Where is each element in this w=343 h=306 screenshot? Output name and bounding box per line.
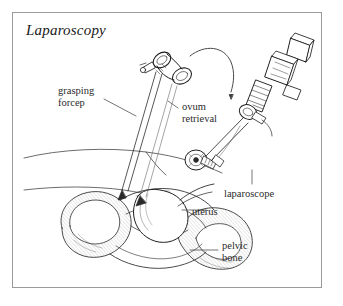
label-ovum-retrieval: ovum retrieval — [182, 101, 217, 124]
grasping-forcep — [118, 49, 194, 206]
rotation-arrow — [190, 48, 234, 99]
label-grasping-forcep-line1: grasping — [58, 85, 94, 97]
ovum-retrieval-site — [185, 150, 216, 170]
leader-grasping-forcep — [104, 99, 136, 116]
figure-page: Laparoscopy — [0, 0, 343, 306]
label-pelvic-bone-line2: bone — [222, 252, 248, 264]
laparoscopy-illustration — [0, 0, 343, 306]
laparoscope — [206, 33, 314, 167]
label-grasping-forcep: grasping forcep — [58, 85, 94, 108]
label-pelvic-bone-line1: pelvic — [222, 240, 248, 252]
label-uterus: uterus — [192, 206, 218, 218]
label-laparoscope: laparoscope — [224, 188, 274, 200]
label-grasping-forcep-line2: forcep — [58, 97, 94, 109]
label-pelvic-bone: pelvic bone — [222, 240, 248, 263]
label-ovum-retrieval-line2: retrieval — [182, 113, 217, 125]
label-ovum-retrieval-line1: ovum — [182, 101, 217, 113]
leader-ovum-retrieval — [168, 101, 178, 108]
